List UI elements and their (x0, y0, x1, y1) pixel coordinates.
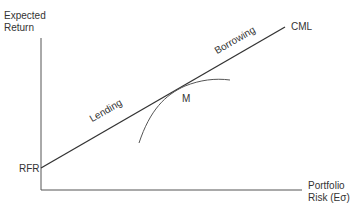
y-axis-label: Expected Return (4, 10, 46, 34)
market-portfolio-label: M (182, 93, 190, 105)
x-axis-label: Portfolio Risk (Eσ) (308, 180, 350, 204)
rfr-label: RFR (19, 163, 40, 175)
efficient-frontier-curve (139, 79, 230, 143)
capital-market-line (41, 27, 285, 168)
cml-label: CML (291, 21, 312, 33)
